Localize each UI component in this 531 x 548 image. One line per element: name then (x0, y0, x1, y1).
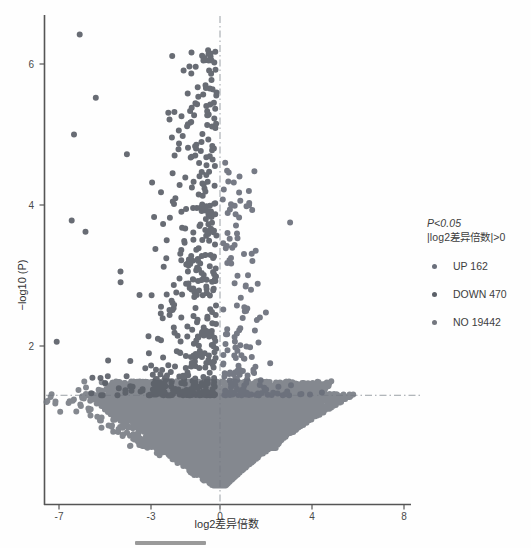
scatter-points-up (220, 160, 325, 398)
scatter-points-layer (44, 31, 357, 488)
legend-dot-down-icon (427, 292, 441, 297)
legend-label-no: NO 19442 (453, 316, 501, 328)
y-axis-ticks: 246 (28, 59, 44, 352)
legend-title-line-1: P<0.05 (427, 216, 527, 230)
x-tick-label: -3 (147, 511, 156, 522)
legend-title-line-2: |log2差异倍数|>0 (427, 230, 527, 244)
legend-item-no[interactable]: NO 19442 (427, 312, 527, 332)
legend-label-up: UP 162 (453, 260, 488, 272)
legend: P<0.05 |log2差异倍数|>0 UP 162 DOWN 470 NO (427, 216, 527, 340)
x-axis-title: log2差异倍数 (195, 517, 260, 530)
y-tick-label: 4 (28, 200, 34, 211)
legend-items: UP 162 DOWN 470 NO 19442 (427, 256, 527, 332)
x-tick-label: -7 (55, 511, 64, 522)
x-tick-label: 8 (401, 511, 407, 522)
y-tick-label: 6 (28, 59, 34, 70)
legend-dot-up-icon (427, 264, 441, 269)
legend-title-pvalue: P<0.05 (427, 217, 461, 229)
volcano-plot-figure: -7-3048 246 log2差异倍数 −log10 (P) P<0.05 |… (0, 0, 531, 548)
x-tick-label: 4 (309, 511, 315, 522)
bottom-scroll-artifact (135, 541, 206, 545)
legend-item-up[interactable]: UP 162 (427, 256, 527, 276)
legend-label-down: DOWN 470 (453, 288, 507, 300)
y-axis-title: −log10 (P) (16, 259, 28, 310)
y-tick-label: 2 (28, 341, 34, 352)
legend-item-down[interactable]: DOWN 470 (427, 284, 527, 304)
scatter-points-down (54, 31, 220, 398)
legend-dot-no-icon (427, 320, 441, 325)
